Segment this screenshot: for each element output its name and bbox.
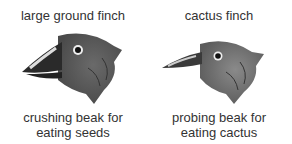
caption-line: eating cactus — [146, 125, 292, 140]
beak-description: probing beak for eating cactus — [146, 110, 292, 140]
cactus-finch-head-illustration — [160, 34, 270, 108]
caption-line: probing beak for — [146, 110, 292, 125]
finch-name: cactus finch — [146, 8, 292, 23]
caption-line: crushing beak for — [0, 110, 146, 125]
large-ground-finch-head-illustration — [18, 28, 130, 108]
finch-name: large ground finch — [0, 8, 146, 23]
large-ground-finch-panel: large ground finch crushing beak for eat… — [0, 0, 146, 144]
cactus-finch-panel: cactus finch probing beak for eating cac… — [146, 0, 292, 144]
caption-line: eating seeds — [0, 125, 146, 140]
beak-description: crushing beak for eating seeds — [0, 110, 146, 140]
